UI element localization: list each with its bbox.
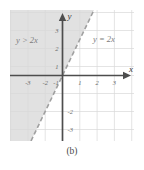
- x-tick-label-1: 1: [78, 79, 81, 86]
- x-tick-label-neg1: -1: [53, 79, 58, 86]
- coordinate-plane: -3 -2 -1 1 2 3 3 2 1 -2 -3 x y y > 2x y …: [10, 10, 134, 141]
- graph-figure: -3 -2 -1 1 2 3 3 2 1 -2 -3 x y y > 2x y …: [0, 0, 144, 170]
- y-tick-label-1: 1: [55, 63, 58, 70]
- figure-caption: (b): [0, 146, 144, 156]
- region-label-inequality: y > 2x: [15, 35, 38, 45]
- x-tick-label-neg3: -3: [25, 79, 31, 86]
- x-tick-label-neg2: -2: [42, 79, 48, 86]
- x-tick-label-3: 3: [112, 79, 117, 86]
- y-axis-label: y: [67, 11, 72, 21]
- y-tick-label-neg3: -3: [68, 126, 74, 133]
- y-tick-label-neg2: -2: [68, 108, 74, 115]
- plot-area: -3 -2 -1 1 2 3 3 2 1 -2 -3 x y y > 2x y …: [10, 10, 134, 141]
- x-axis-label: x: [128, 64, 133, 74]
- line-label-equation: y = 2x: [92, 34, 115, 44]
